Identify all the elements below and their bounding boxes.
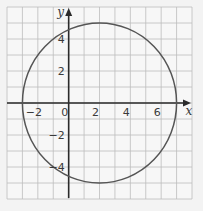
y-tick-label: 2 bbox=[58, 65, 65, 78]
x-tick-label: 2 bbox=[92, 106, 99, 119]
plot-area: −2024642−2−4xy bbox=[0, 0, 203, 211]
x-tick-label: 0 bbox=[61, 106, 68, 119]
circle-graph: −2024642−2−4xy bbox=[0, 0, 203, 211]
y-tick-label: −2 bbox=[48, 129, 64, 142]
y-tick-label: −4 bbox=[48, 161, 64, 174]
x-axis-label: x bbox=[186, 104, 193, 118]
x-tick-label: 6 bbox=[154, 106, 161, 119]
x-tick-label: −2 bbox=[26, 106, 42, 119]
y-axis-label: y bbox=[56, 5, 64, 19]
x-tick-label: 4 bbox=[123, 106, 130, 119]
y-tick-label: 4 bbox=[58, 33, 65, 46]
